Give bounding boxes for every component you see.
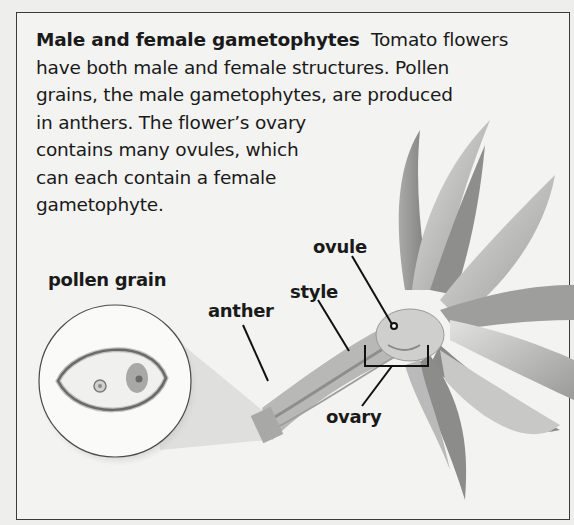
pollen-grain-diagram — [38, 305, 198, 466]
petals — [399, 120, 574, 500]
label-ovule: ovule — [313, 236, 367, 257]
ovary-shape — [376, 309, 444, 361]
label-pollen-grain: pollen grain — [48, 269, 166, 290]
label-ovary: ovary — [326, 406, 381, 427]
flower-illustration — [0, 0, 574, 525]
label-style: style — [290, 281, 338, 302]
label-anther: anther — [208, 300, 274, 321]
